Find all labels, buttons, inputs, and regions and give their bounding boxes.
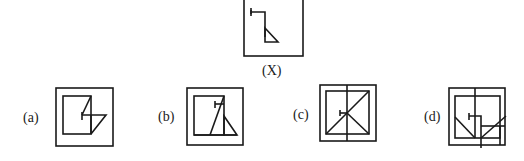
option-b-figure[interactable] [185,86,247,148]
question-figure-x [242,0,306,60]
option-a-label: (a) [23,110,39,126]
option-d-figure[interactable] [447,86,509,150]
option-a-figure[interactable] [54,86,116,148]
option-d-label: (d) [424,109,440,125]
option-b-label: (b) [158,109,174,125]
question-figure-label: (X) [262,63,281,79]
option-c-figure[interactable] [318,83,380,145]
option-c-label: (c) [293,107,309,123]
